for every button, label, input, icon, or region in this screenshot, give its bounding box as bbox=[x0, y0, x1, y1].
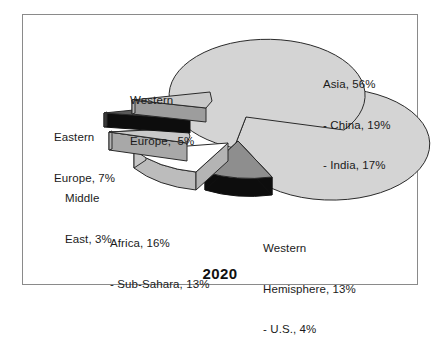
label-asia-line2: - China, 19% bbox=[323, 119, 391, 133]
label-western-hemisphere-line3: - U.S., 4% bbox=[263, 323, 356, 337]
label-africa-line1: Africa, 16% bbox=[110, 237, 210, 251]
label-middle-east: Middle East, 3% bbox=[65, 165, 112, 273]
label-middle-east-line2: East, 3% bbox=[65, 233, 112, 247]
label-western-hemisphere-line2: Hemisphere, 13% bbox=[263, 283, 356, 297]
label-africa: Africa, 16% - Sub-Sahara, 13% bbox=[110, 210, 210, 318]
chart-title: 2020 bbox=[23, 265, 417, 282]
label-asia-line3: - India, 17% bbox=[323, 159, 391, 173]
label-middle-east-line1: Middle bbox=[65, 192, 112, 206]
label-western-europe-line1: Western bbox=[130, 94, 194, 108]
label-asia-line1: Asia, 56% bbox=[323, 78, 391, 92]
chart-frame: Asia, 56% - China, 19% - India, 17% West… bbox=[22, 14, 418, 285]
label-asia: Asia, 56% - China, 19% - India, 17% bbox=[323, 51, 391, 200]
label-western-europe: Western Europe, 5% bbox=[130, 67, 194, 175]
label-western-europe-line2: Europe, 5% bbox=[130, 135, 194, 149]
label-eastern-europe-line1: Eastern bbox=[54, 131, 115, 145]
label-western-hemisphere-line1: Western bbox=[263, 242, 356, 256]
